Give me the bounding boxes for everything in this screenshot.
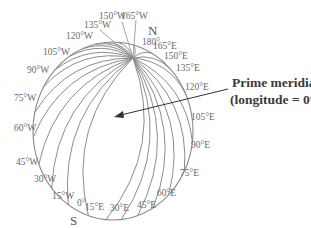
meridian-label: 150°E [164,51,188,61]
north-pole-label: N [148,23,158,38]
meridian-line [52,58,133,188]
globe-diagram: 165°W150°W135°W120°W105°W90°W75°W60°W45°… [0,0,311,228]
meridian-label: 15°E [85,202,104,212]
meridian-label: 75°W [14,93,36,103]
meridian-label: 135°E [176,63,200,73]
south-pole-label: S [70,213,77,228]
meridian-line [83,58,133,216]
meridian-line [133,58,165,208]
meridian-label: 180° [142,37,160,47]
meridian-label: 15°W [52,191,74,201]
meridian-label: 90°W [27,65,49,75]
meridian-label: 30°E [110,203,129,213]
callout-line-2: (longitude = 0°) [230,92,311,107]
meridian-label: 105°W [43,47,70,57]
meridian-label: 60°E [157,188,176,198]
meridian-label: 120°E [185,82,209,92]
meridian-label: 60°W [14,123,36,133]
arrowhead-icon [114,111,124,118]
meridian-label: 120°W [66,31,93,41]
callout-line-1: Prime meridian [232,75,311,90]
meridian-label: 90°E [191,140,210,150]
meridian-label: 45°E [137,200,156,210]
meridian-label: 135°W [84,20,111,30]
meridian-label: 75°E [180,168,199,178]
meridian-label: 45°W [16,157,38,167]
meridian-label: 30°W [34,174,56,184]
meridian-label: 105°E [191,112,215,122]
